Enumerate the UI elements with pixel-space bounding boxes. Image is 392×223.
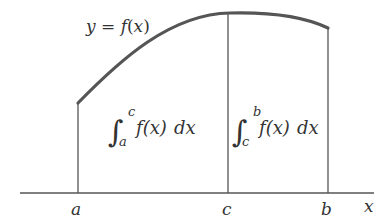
axis-label-x: x [364,196,374,216]
integral-lower-limit: c [242,134,250,149]
integral-c-to-b: ∫ b c f(x) dx [232,104,319,149]
integrand: f(x) [134,117,167,138]
differential: dx [174,117,196,138]
tick-label-a: a [71,199,81,219]
differential: dx [297,117,319,138]
integrand: f(x) [257,117,290,138]
integral-upper-limit: c [128,104,136,119]
curve-label: y = f(x) [85,16,150,36]
integral-additivity-diagram: y = f(x) ∫ c a f(x) dx ∫ b c f(x) dx a c… [0,0,392,223]
integral-lower-limit: a [119,134,127,149]
tick-label-b: b [321,199,332,219]
tick-label-c: c [222,199,232,219]
integral-a-to-c: ∫ c a f(x) dx [108,104,196,149]
